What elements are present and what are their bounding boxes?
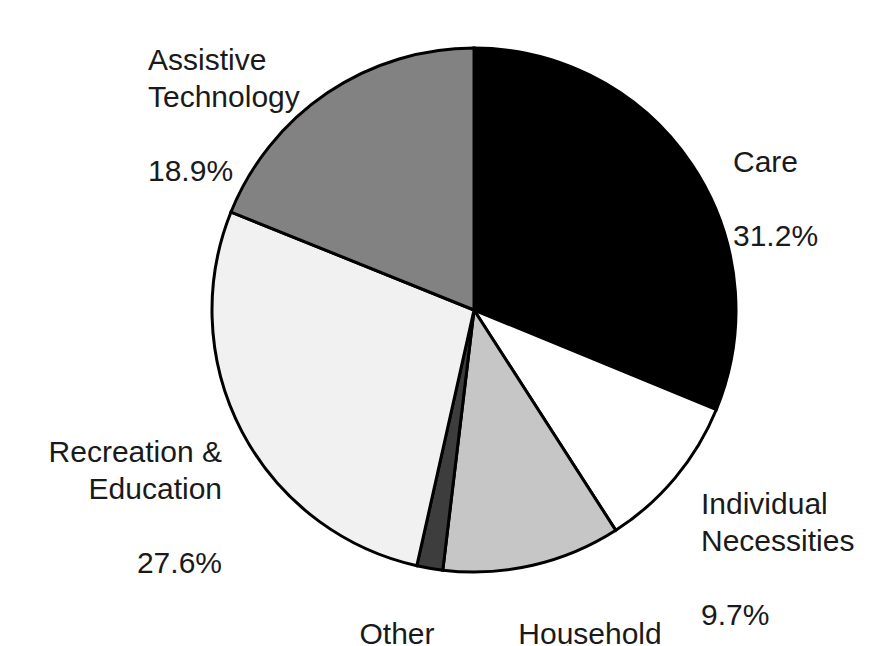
slice-label-percent: 27.6% [0, 544, 222, 581]
pie-chart: Assistive Technology 18.9% Care 31.2% In… [0, 0, 886, 646]
slice-label-percent: 31.2% [733, 217, 883, 254]
slice-label-household: Household 11% [500, 578, 680, 646]
slice-label-name: Other [332, 615, 462, 646]
slice-label-name: Recreation & Education [0, 433, 222, 507]
slice-label-recreation-education: Recreation & Education 27.6% [0, 396, 222, 618]
slice-label-name: Household [500, 615, 680, 646]
slice-label-other: Other 1.6% [332, 578, 462, 646]
slice-label-percent: 9.7% [701, 596, 886, 633]
slice-label-name: Assistive Technology [148, 41, 388, 115]
slice-label-care: Care 31.2% [733, 106, 883, 291]
slice-label-individual-necessities: Individual Necessities 9.7% [701, 448, 886, 646]
slice-label-percent: 18.9% [148, 152, 388, 189]
slice-label-name: Care [733, 143, 883, 180]
slice-label-assistive-technology: Assistive Technology 18.9% [148, 4, 388, 226]
slice-label-name: Individual Necessities [701, 485, 886, 559]
